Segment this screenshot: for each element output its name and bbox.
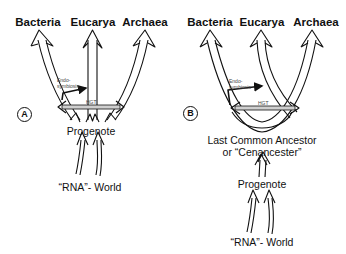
tree-of-life-diagram: [0, 0, 346, 254]
cenancester-label-b: or “Cenancester”: [223, 146, 302, 158]
lca-label-b: Last Common Ancestor: [207, 134, 316, 146]
endosymbiosis-label-a: Endo- symbiosis: [57, 77, 79, 89]
endosymbiosis-label-b: Endo- symbiosis: [229, 78, 251, 90]
progenote-label-a: Progenote: [67, 125, 115, 137]
domain-label-archaea-a: Archaea: [122, 16, 167, 28]
panel-b-diagram: [200, 30, 323, 234]
endosymbiosis-arrow-a: [62, 88, 86, 100]
rna-world-label-b: “RNA”- World: [231, 236, 294, 248]
domain-label-bacteria-a: Bacteria: [15, 16, 60, 28]
panel-marker-b: B: [183, 106, 198, 121]
progenote-label-b: Progenote: [238, 178, 286, 190]
domain-label-eucarya-b: Eucarya: [240, 16, 285, 28]
domain-label-eucarya-a: Eucarya: [71, 16, 116, 28]
rna-world-label-a: “RNA”- World: [59, 181, 122, 193]
domain-label-archaea-b: Archaea: [293, 16, 338, 28]
rna-to-progenote-arrows-a: [76, 132, 104, 176]
hgt-band-a: [62, 105, 120, 109]
bacteria-archaea-arc-b: [200, 30, 323, 132]
rna-to-progenote-arrows-b: [247, 190, 275, 234]
domain-label-bacteria-b: Bacteria: [187, 16, 232, 28]
hgt-label-b: HGT: [258, 100, 269, 106]
hgt-band-b: [235, 106, 295, 110]
panel-marker-a: A: [17, 107, 32, 122]
hgt-label-a: HGT: [86, 99, 97, 105]
